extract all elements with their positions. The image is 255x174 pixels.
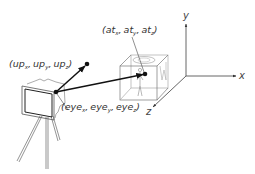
standing-figure-icon xyxy=(137,68,143,96)
coordinate-axes: y x z xyxy=(145,10,245,117)
y-axis-label: y xyxy=(182,10,190,21)
at-point xyxy=(143,72,148,77)
z-axis xyxy=(153,76,186,107)
eye-point-label: (eyex,eyey,eyez) xyxy=(61,101,140,114)
z-axis-label: z xyxy=(145,106,152,117)
up-point-label: (upx,upy,upz) xyxy=(9,58,72,71)
tripod-leg-left xyxy=(17,116,40,161)
vectors xyxy=(56,66,143,92)
cube-back-face xyxy=(131,55,168,88)
side-figure-icon xyxy=(160,62,166,80)
eye-to-up-arrow xyxy=(56,66,85,92)
camera-bellows xyxy=(27,79,65,118)
at-leader-line xyxy=(132,37,144,72)
eye-point xyxy=(54,90,59,95)
up-point xyxy=(85,62,90,67)
top-figure-icon xyxy=(133,57,155,64)
camera-lens-panel xyxy=(25,89,52,117)
at-point-label: (atx,aty,atz) xyxy=(102,24,158,37)
camera-lookat-diagram: y x z xyxy=(0,0,255,174)
x-axis-label: x xyxy=(238,70,245,81)
